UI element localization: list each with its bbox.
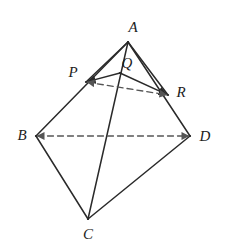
vertex-label-q: Q	[122, 56, 133, 71]
vertices-layer	[35, 41, 191, 220]
vertex-label-a: A	[128, 20, 137, 35]
segment-qp	[87, 73, 120, 82]
vertex-point-r	[167, 94, 169, 96]
vertex-label-d: D	[200, 129, 211, 144]
vertex-label-c: C	[83, 227, 93, 242]
figure-canvas	[0, 0, 226, 250]
vertex-point-b	[35, 135, 37, 137]
vertex-point-c	[87, 218, 89, 220]
vertex-label-b: B	[17, 128, 26, 143]
vertex-point-a	[127, 41, 129, 43]
vertex-point-d	[189, 135, 191, 137]
vertex-label-p: P	[68, 65, 77, 80]
segments-layer	[36, 42, 190, 219]
vertex-label-r: R	[176, 85, 185, 100]
segment-bc	[36, 136, 88, 219]
segment-ar	[128, 42, 168, 95]
vertex-point-p	[85, 81, 87, 83]
geometry-figure: ABCDPQR	[0, 0, 226, 250]
vertex-point-q	[119, 72, 121, 74]
